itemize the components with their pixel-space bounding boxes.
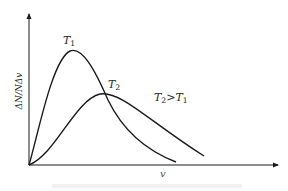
maxwell-distribution-diagram: T1 T2 T2>T1 v ΔN/NΔv: [0, 0, 288, 191]
figure-caption-illegible: [52, 184, 242, 188]
curve-label-t2: T2: [108, 78, 120, 92]
x-axis-label: v: [160, 168, 166, 179]
plot-canvas: [0, 0, 288, 191]
curve-t1: [29, 50, 176, 165]
temperature-relation: T2>T1: [154, 91, 188, 105]
curve-label-t1: T1: [63, 34, 75, 48]
y-axis-label: ΔN/NΔv: [14, 66, 24, 116]
